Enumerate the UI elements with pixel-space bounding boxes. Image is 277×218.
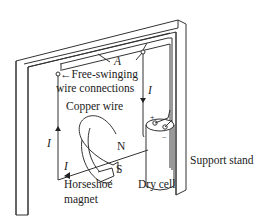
- current-arrow-down: [140, 98, 146, 103]
- free-swinging-label-line1: ←Free-swinging: [60, 68, 138, 80]
- current-label-bottom: I: [64, 160, 68, 172]
- free-swinging-label-line2: wire connections: [56, 82, 134, 94]
- negative-terminal-label: −: [162, 132, 167, 144]
- north-pole-label: N: [117, 140, 125, 152]
- segment-a-label: A: [114, 55, 121, 67]
- magnet-label-line1: Horseshoe: [64, 178, 113, 190]
- copper-wire-label: Copper wire: [66, 100, 123, 112]
- free-swinging-text: Free-swinging: [72, 68, 138, 80]
- positive-terminal-label: +: [150, 112, 155, 124]
- diagram-canvas: A ←Free-swinging wire connections I Copp…: [0, 0, 277, 218]
- support-stand-label: Support stand: [190, 154, 254, 166]
- magnet-label-line2: magnet: [64, 193, 98, 205]
- south-pole-label: S: [116, 163, 122, 175]
- current-arrow-up: [55, 126, 61, 131]
- current-label-right: I: [148, 84, 152, 96]
- dry-cell-label: Dry cell: [138, 178, 175, 190]
- current-label-left: I: [47, 137, 51, 149]
